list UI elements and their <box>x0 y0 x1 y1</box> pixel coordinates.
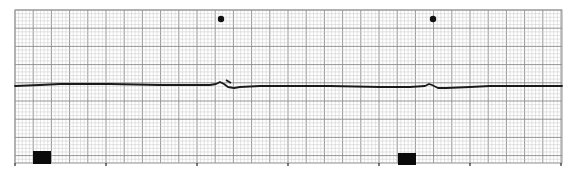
event-marker-box <box>33 151 51 164</box>
event-marker-box <box>398 153 416 165</box>
beat-markers <box>218 16 436 22</box>
ecg-strip <box>0 0 569 175</box>
beat-marker-dot-icon <box>430 16 436 22</box>
beat-marker-dot-icon <box>218 16 224 22</box>
